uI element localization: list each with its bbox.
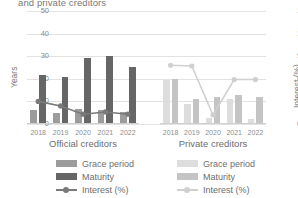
x-axis-line bbox=[27, 123, 139, 124]
legend-swatch-grace-period bbox=[177, 160, 198, 167]
legend-private: Grace period Maturity Interest (%) bbox=[177, 157, 255, 196]
legend-swatch-interest bbox=[177, 186, 198, 193]
interest-data-point bbox=[103, 109, 108, 114]
x-tick-label: 2022 bbox=[244, 129, 266, 137]
y-tick-right: 0 bbox=[297, 120, 298, 128]
interest-data-point bbox=[80, 112, 85, 117]
interest-line-series bbox=[160, 11, 266, 124]
y-axis-label-left: Years bbox=[9, 67, 19, 88]
legend-label-maturity: Maturity bbox=[82, 172, 114, 182]
legend-swatch-grace-period bbox=[56, 160, 77, 167]
x-tick-label: 2021 bbox=[223, 129, 245, 137]
panel-caption-official: Official creditors bbox=[27, 138, 139, 149]
legend-item-maturity[interactable]: Maturity bbox=[56, 170, 134, 183]
y-tick-right: 9 bbox=[297, 52, 298, 60]
chart-figure: and private creditors 001032063094012501… bbox=[0, 0, 298, 198]
panel-private-creditors: 20182019202020212022 bbox=[160, 11, 266, 124]
legend-item-grace-period[interactable]: Grace period bbox=[177, 157, 255, 170]
x-tick-label: 2018 bbox=[160, 129, 182, 137]
panel-official-creditors: 20182019202020212022 bbox=[27, 11, 139, 124]
interest-data-point bbox=[58, 103, 63, 108]
legend-label-maturity: Maturity bbox=[203, 172, 235, 182]
legend-label-interest: Interest (%) bbox=[82, 185, 129, 195]
interest-data-point bbox=[189, 63, 194, 68]
x-tick-label: 2019 bbox=[50, 129, 72, 137]
interest-data-point bbox=[210, 112, 215, 117]
legend-item-grace-period[interactable]: Grace period bbox=[56, 157, 134, 170]
legend-item-interest[interactable]: Interest (%) bbox=[56, 183, 134, 196]
legend-official: Grace period Maturity Interest (%) bbox=[56, 157, 134, 196]
x-tick-label: 2020 bbox=[202, 129, 224, 137]
y-tick-right: 15 bbox=[297, 7, 298, 15]
legend-item-interest[interactable]: Interest (%) bbox=[177, 183, 255, 196]
x-tick-label: 2022 bbox=[117, 129, 139, 137]
legend-item-maturity[interactable]: Maturity bbox=[177, 170, 255, 183]
x-tick-label: 2018 bbox=[27, 129, 49, 137]
interest-data-point bbox=[253, 77, 258, 82]
interest-data-point bbox=[36, 99, 41, 104]
gridline bbox=[27, 124, 266, 125]
x-axis-line bbox=[160, 123, 266, 124]
panel-caption-private: Private creditors bbox=[160, 138, 266, 149]
x-tick-label: 2021 bbox=[94, 129, 116, 137]
legend-label-grace-period: Grace period bbox=[82, 159, 134, 169]
legend-swatch-interest bbox=[56, 186, 77, 193]
interest-line-series bbox=[27, 11, 139, 124]
legend-label-grace-period: Grace period bbox=[203, 159, 255, 169]
interest-data-point bbox=[125, 112, 130, 117]
legend-swatch-maturity bbox=[56, 173, 77, 180]
x-tick-label: 2020 bbox=[72, 129, 94, 137]
legend-swatch-maturity bbox=[177, 173, 198, 180]
legend-label-interest: Interest (%) bbox=[203, 185, 250, 195]
x-tick-label: 2019 bbox=[181, 129, 203, 137]
plot-area: 0010320630940125015 20182019202020212022… bbox=[27, 11, 266, 124]
y-axis-label-right: Interest (%) bbox=[292, 64, 298, 108]
interest-data-point bbox=[232, 77, 237, 82]
interest-data-point bbox=[168, 63, 173, 68]
y-tick-right: 12 bbox=[297, 30, 298, 38]
